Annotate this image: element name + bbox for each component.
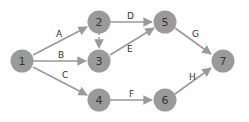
edge-label-A: A	[56, 29, 63, 39]
network-diagram: A B C D E F G H	[0, 0, 249, 122]
node-2: 2	[88, 11, 111, 34]
edge-E: E	[110, 28, 154, 55]
edge-C: C	[33, 67, 87, 95]
node-label-4: 4	[96, 94, 103, 107]
edge-label-D: D	[127, 11, 134, 21]
node-label-2: 2	[96, 16, 103, 29]
node-4: 4	[88, 89, 111, 112]
edge-label-H: H	[189, 72, 196, 82]
node-label-3: 3	[96, 55, 103, 68]
edge-F: F	[110, 89, 152, 100]
node-5: 5	[154, 11, 177, 34]
edge-label-F: F	[129, 89, 134, 99]
edge-G: G	[175, 28, 211, 54]
node-label-7: 7	[220, 55, 227, 68]
edge-label-E: E	[127, 44, 133, 54]
node-7: 7	[212, 50, 235, 73]
node-3: 3	[88, 50, 111, 73]
node-label-6: 6	[162, 94, 169, 107]
edge-label-B: B	[58, 50, 64, 60]
node-6: 6	[154, 89, 177, 112]
node-label-5: 5	[162, 16, 169, 29]
edge-label-C: C	[62, 70, 68, 80]
edge-H: H	[175, 68, 211, 94]
node-label-1: 1	[19, 55, 26, 68]
edge-label-G: G	[192, 29, 199, 39]
edge-D: D	[110, 11, 152, 22]
node-1: 1	[11, 50, 34, 73]
